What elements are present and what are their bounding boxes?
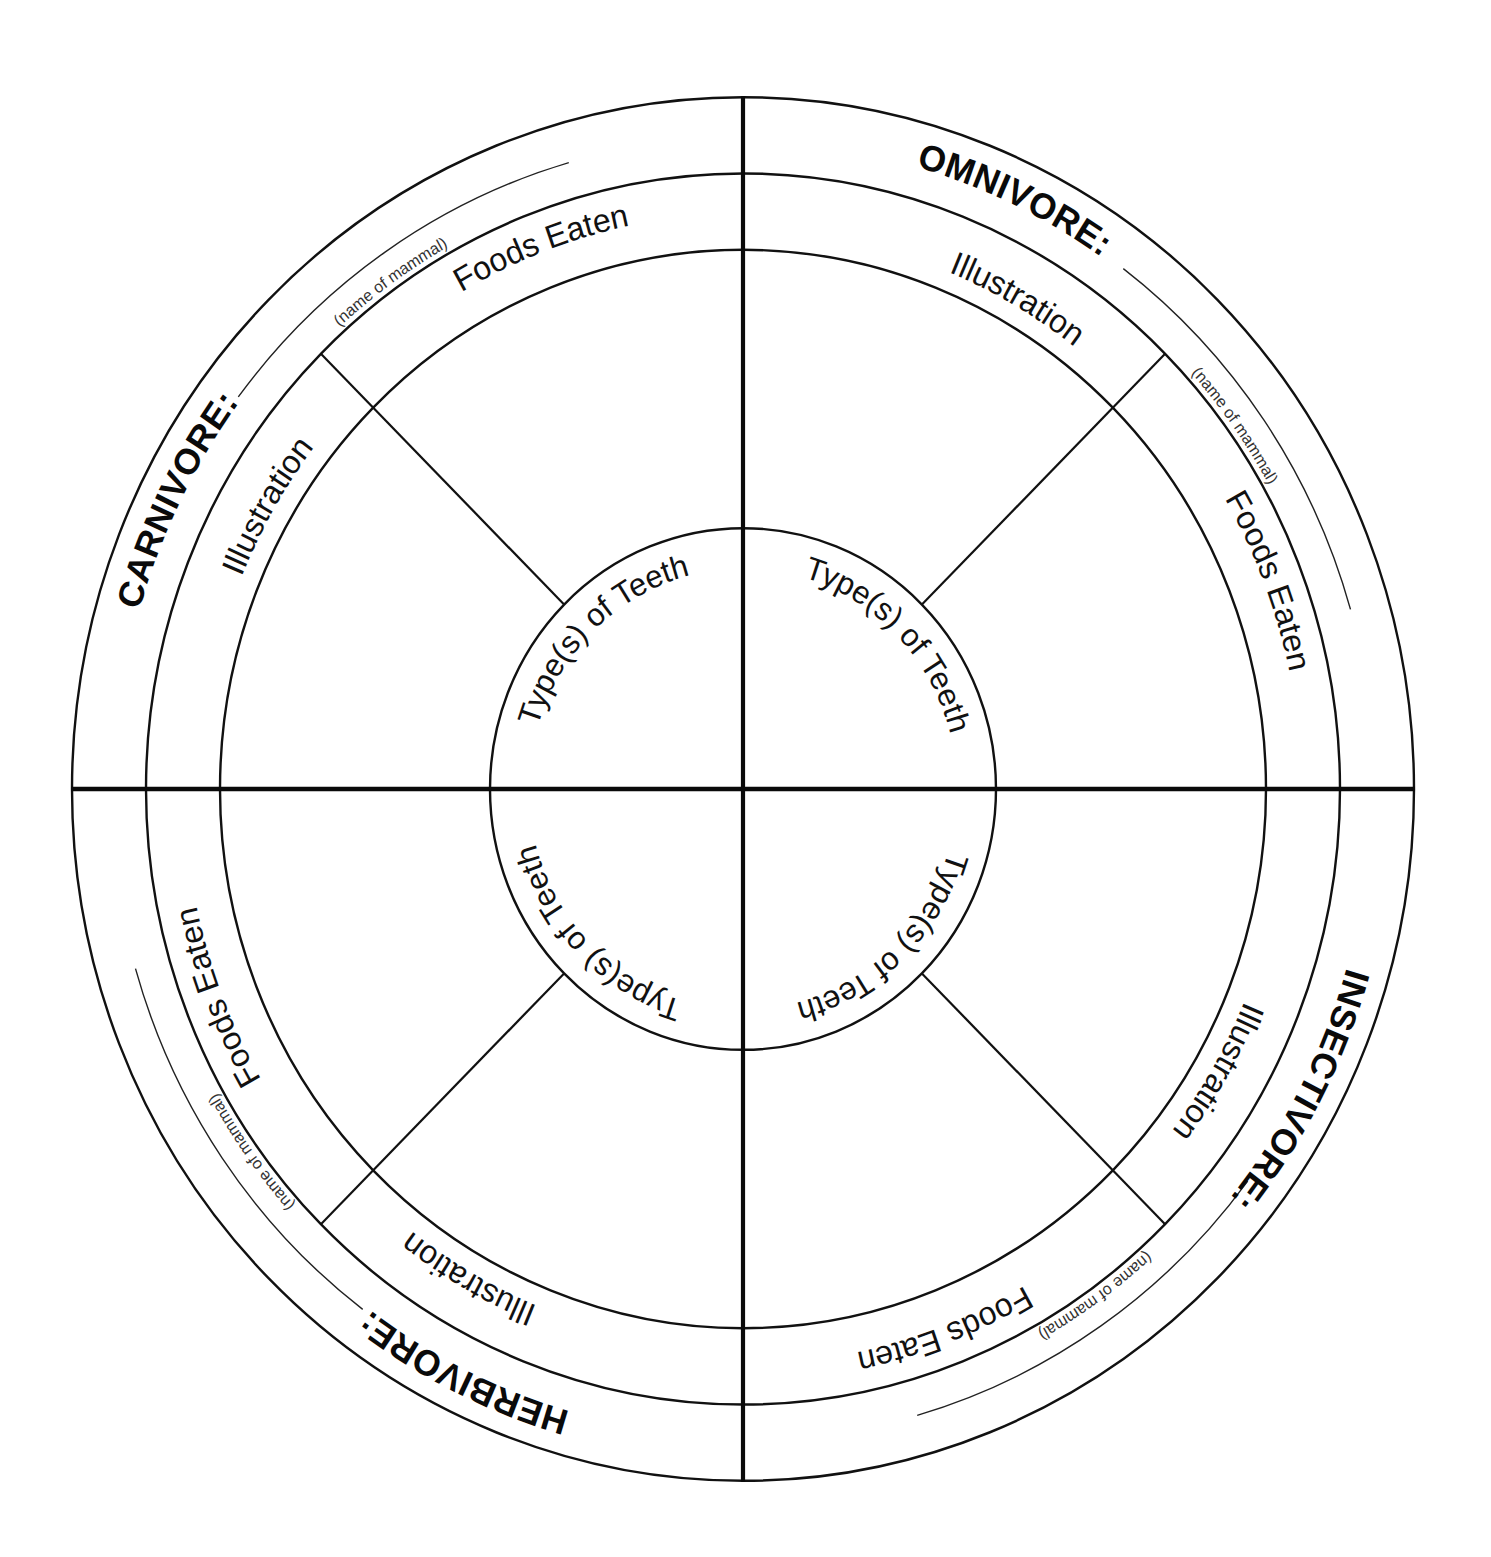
- quadrant-carnivore: CARNIVORE: (name of mammal) Illustration…: [109, 163, 692, 730]
- quadrant-omnivore: OMNIVORE: (name of mammal) Illustration …: [801, 135, 1351, 736]
- section-divider-line: [922, 354, 1165, 605]
- section-divider-line: [922, 973, 1165, 1224]
- illustration-label: Illustration: [215, 430, 320, 580]
- illustration-label: Illustration: [394, 1225, 540, 1333]
- teeth-type-label: Type(s) of Teeth: [511, 548, 692, 730]
- section-divider-line: [321, 973, 564, 1224]
- foods-eaten-label: Foods Eaten: [1219, 484, 1318, 674]
- illustration-label: Illustration: [1166, 998, 1271, 1148]
- section-divider-line: [321, 354, 564, 605]
- illustration-label: Illustration: [946, 245, 1092, 353]
- category-label: OMNIVORE:: [914, 135, 1120, 264]
- teeth-type-label: Type(s) of Teeth: [801, 550, 977, 736]
- teeth-type-label: Type(s) of Teeth: [509, 841, 685, 1027]
- foods-eaten-label: Foods Eaten: [855, 1279, 1039, 1381]
- quadrant-insectivore: INSECTIVORE: (name of mammal) Illustrati…: [794, 849, 1377, 1416]
- foods-eaten-label: Foods Eaten: [169, 904, 268, 1094]
- diet-wheel-diagram: CARNIVORE: (name of mammal) Illustration…: [0, 0, 1491, 1557]
- teeth-type-label: Type(s) of Teeth: [794, 849, 975, 1031]
- quadrant-herbivore: HERBIVORE: (name of mammal) Illustration…: [136, 841, 686, 1442]
- wheel-body: CARNIVORE: (name of mammal) Illustration…: [71, 96, 1415, 1482]
- foods-eaten-label: Foods Eaten: [447, 197, 631, 299]
